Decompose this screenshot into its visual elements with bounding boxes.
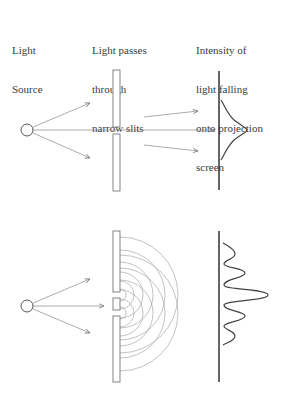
intensity-curve-single-peak <box>221 100 247 160</box>
ray-arrow <box>144 111 198 117</box>
barrier-bottom <box>113 316 120 382</box>
barrier-top <box>113 231 120 292</box>
barrier-bottom <box>113 134 120 191</box>
ray-arrow <box>33 103 90 127</box>
ray-arrow <box>33 279 90 303</box>
upper-panel <box>21 70 247 191</box>
barrier-top <box>113 70 120 127</box>
barrier-middle <box>113 298 120 310</box>
light-source-icon <box>21 300 33 312</box>
ray-arrow <box>33 133 90 158</box>
light-source-icon <box>21 124 33 136</box>
lower-panel <box>21 231 268 382</box>
double-slit-diagram <box>0 0 286 395</box>
ray-arrow <box>33 309 90 333</box>
ray-arrow <box>144 145 198 151</box>
intensity-curve-interference <box>223 243 268 345</box>
wavefronts <box>120 237 178 371</box>
